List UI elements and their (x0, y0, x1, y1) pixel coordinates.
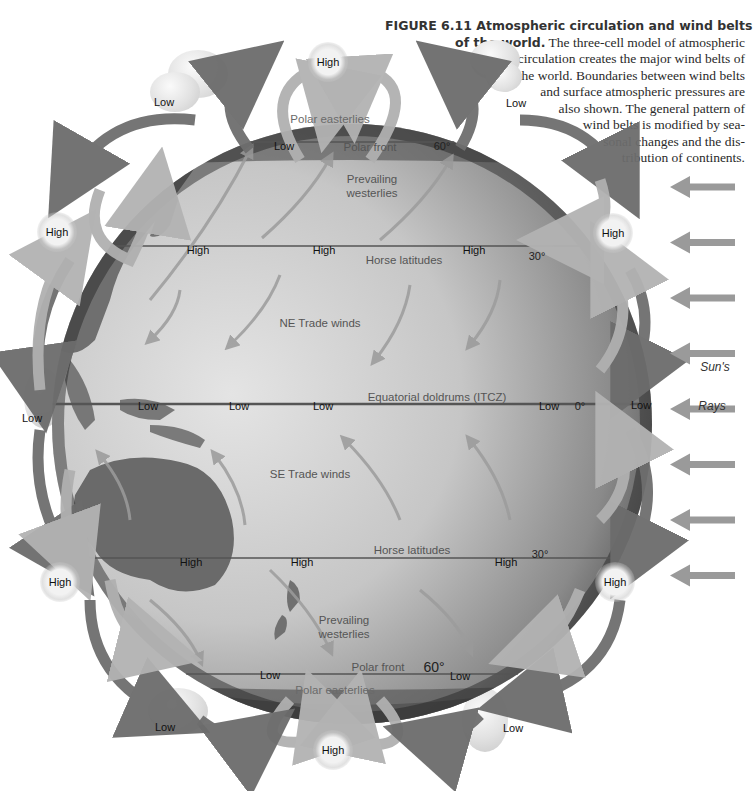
horse-latitudes-south-label: Horse latitudes (374, 543, 451, 557)
surface-high-south-30-3: High (495, 556, 518, 568)
equatorial-doldrums-label: Equatorial doldrums (ITCZ) (368, 390, 507, 404)
surface-low-equator-1: Low (138, 400, 158, 412)
westerlies-north-line1: Prevailing (347, 173, 398, 185)
cell-arrow-dark (520, 120, 620, 180)
high-badge-right-north-30: High (593, 213, 633, 253)
high-badge-left-north-30: High (37, 212, 77, 252)
low-label-cloud-equator-right: Low (631, 399, 651, 411)
degree-60-south: 60° (423, 659, 444, 675)
westerlies-south-line2: westerlies (318, 628, 369, 640)
sun-ray-arrows (670, 176, 735, 587)
polar-easterlies-south-label: Polar easterlies (295, 683, 374, 697)
high-badge-left-south-30: High (40, 562, 80, 602)
sun-ray-arrow-head (670, 565, 690, 587)
degree-0-equator: 0° (575, 400, 586, 412)
westerlies-south-label: Prevailingwesterlies (318, 613, 369, 641)
degree-60-north: 60° (434, 140, 451, 152)
surface-low-south-60-1: Low (260, 669, 280, 681)
low-label-cloud-equator-left: Low (22, 412, 42, 424)
suns-rays-label-bottom: Rays (698, 399, 725, 413)
surface-low-north-60: Low (274, 140, 294, 152)
surface-low-south-60-2: Low (450, 670, 470, 682)
surface-low-equator-3: Low (313, 400, 333, 412)
cell-arrow-dark (200, 720, 260, 740)
westerlies-north-label: Prevailingwesterlies (346, 172, 397, 200)
wind-belts-figure: FIGURE 6.11 Atmospheric circulation and … (0, 0, 753, 791)
low-label-cloud-north-right: Low (506, 97, 526, 109)
degree-30-north: 30° (529, 250, 546, 262)
cell-arrow-dark (230, 68, 250, 150)
polar-front-north-label: Polar front (343, 140, 396, 154)
westerlies-north-line2: westerlies (346, 187, 397, 199)
low-label-cloud-south-right: Low (503, 722, 523, 734)
polar-front-south-label: Polar front (351, 660, 404, 674)
low-label-cloud-south-left: Low (155, 721, 175, 733)
westerlies-south-line1: Prevailing (319, 614, 370, 626)
cell-arrow-dark (425, 715, 480, 739)
horse-latitudes-north-label: Horse latitudes (366, 253, 443, 267)
suns-rays-label-top: Sun's (700, 360, 730, 374)
surface-high-north-30-3: High (463, 244, 486, 256)
polar-easterlies-north-label: Polar easterlies (290, 112, 369, 126)
high-badge-south-pole: High (313, 730, 353, 770)
high-badge-right-south-30: High (595, 562, 635, 602)
surface-high-south-30-1: High (180, 556, 203, 568)
surface-high-south-30-2: High (291, 556, 314, 568)
sun-ray-arrow-head (670, 454, 690, 476)
sun-ray-arrow-head (670, 343, 690, 365)
low-label-cloud-north-left: Low (154, 96, 174, 108)
surface-high-north-30-1: High (187, 244, 210, 256)
ne-trades-label: NE Trade winds (279, 316, 360, 330)
sun-ray-arrow-head (670, 509, 690, 531)
surface-high-north-30-2: High (313, 244, 336, 256)
surface-low-equator-4: Low (539, 400, 559, 412)
sun-ray-arrow-head (670, 398, 690, 420)
degree-30-south: 30° (532, 548, 549, 560)
surface-low-equator-2: Low (229, 400, 249, 412)
cell-arrow-dark (450, 68, 473, 148)
sun-ray-arrow-head (670, 287, 690, 309)
sun-ray-arrow-head (670, 176, 690, 198)
cell-arrow-dark (70, 119, 195, 180)
sun-ray-arrow-head (670, 232, 690, 254)
high-badge-north-pole: High (308, 42, 348, 82)
se-trades-label: SE Trade winds (270, 467, 351, 481)
